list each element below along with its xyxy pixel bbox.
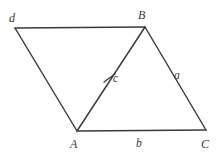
geometry-figure: d B C A a b c [0,0,221,158]
vertex-label-B: B [138,9,145,21]
vertex-label-A: A [70,138,77,150]
edge-A-C [77,130,206,131]
side-label-c: c [113,73,118,85]
diagonal-A-B [77,27,145,131]
edge-d-B [15,27,145,28]
side-label-b: b [136,138,142,150]
edge-d-A [15,28,77,131]
vertex-label-d: d [9,12,15,24]
vertex-label-C: C [201,138,209,150]
figure-canvas [0,0,221,158]
side-label-a: a [174,70,180,82]
